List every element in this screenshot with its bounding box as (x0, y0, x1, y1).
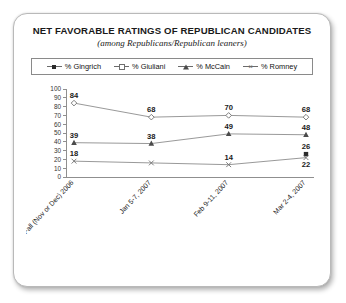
open-diamond-marker (226, 113, 232, 119)
data-label: 26 (302, 142, 310, 151)
chart-card: NET FAVORABLE RATINGS OF REPUBLICAN CAND… (13, 13, 331, 287)
series-line (74, 103, 306, 117)
data-label: 48 (302, 123, 310, 132)
filled-square-marker-icon (47, 62, 62, 71)
data-label: 68 (302, 105, 310, 114)
chart-legend: % Gingrich % Giuliani % McCain × (31, 58, 313, 75)
chart-subtitle: (among Republicans/Republican leaners) (26, 38, 318, 49)
chart-card-inner: NET FAVORABLE RATINGS OF REPUBLICAN CAND… (14, 14, 330, 286)
x-tick-label: Jan 5-7, 2007 (118, 179, 152, 215)
y-tick-label: 30 (54, 147, 62, 154)
open-diamond-marker (149, 114, 155, 120)
chart-title: NET FAVORABLE RATINGS OF REPUBLICAN CAND… (26, 25, 318, 37)
y-tick-label: 90 (54, 94, 62, 101)
y-tick-label: 0 (57, 173, 61, 180)
legend-label-mccain: % McCain (196, 62, 230, 71)
x-tick-label: Feb 9-11, 2007 (192, 179, 229, 218)
data-label: 49 (224, 122, 232, 131)
data-label: 14 (224, 153, 233, 162)
open-diamond-marker (303, 114, 309, 120)
data-label: 18 (70, 149, 78, 158)
legend-item-gingrich[interactable]: % Gingrich (47, 62, 101, 71)
data-label: 22 (302, 160, 310, 169)
x-tick-label: Fall (Nov or Dec) 2006 (26, 179, 76, 236)
legend-label-giuliani: % Giuliani (132, 62, 165, 71)
open-diamond-marker-icon (114, 62, 129, 71)
filled-triangle-marker-icon (178, 62, 193, 71)
legend-item-romney[interactable]: × % Romney (243, 62, 297, 71)
y-tick-label: 100 (50, 85, 61, 92)
data-label: 70 (224, 103, 232, 112)
series-line (74, 134, 306, 144)
data-label: 84 (70, 91, 79, 100)
screenshot-root: NET FAVORABLE RATINGS OF REPUBLICAN CAND… (0, 0, 346, 303)
x-cross-marker-icon: × (243, 62, 258, 71)
y-tick-label: 50 (54, 129, 62, 136)
y-tick-label: 10 (54, 165, 62, 172)
data-label: 39 (70, 131, 78, 140)
legend-item-mccain[interactable]: % McCain (178, 62, 230, 71)
open-diamond-marker (71, 100, 77, 106)
legend-item-giuliani[interactable]: % Giuliani (114, 62, 165, 71)
y-tick-label: 60 (54, 121, 62, 128)
x-tick-label: Mar 2-4, 2007 (272, 179, 307, 216)
data-label: 38 (147, 132, 155, 141)
data-label: 68 (147, 105, 155, 114)
series-line (74, 158, 306, 165)
legend-label-gingrich: % Gingrich (65, 62, 101, 71)
y-tick-label: 20 (54, 156, 62, 163)
y-tick-label: 80 (54, 103, 62, 110)
plot-area: 0102030405060708090100268468706839384948… (26, 83, 318, 258)
legend-label-romney: % Romney (261, 62, 297, 71)
y-tick-label: 40 (54, 138, 62, 145)
y-tick-label: 70 (54, 112, 62, 119)
line-chart: 0102030405060708090100268468706839384948… (26, 83, 320, 258)
